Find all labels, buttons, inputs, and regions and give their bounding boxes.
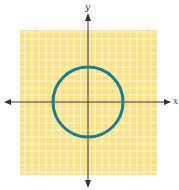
y-axis-label: y <box>85 2 90 12</box>
y-axis-down-arrow-icon <box>85 180 91 188</box>
coordinate-plane <box>0 0 179 190</box>
y-axis-up-arrow-icon <box>85 13 91 21</box>
x-axis-left-arrow-icon <box>4 99 11 105</box>
x-axis-label: x <box>173 96 178 106</box>
x-axis-right-arrow-icon <box>164 99 171 105</box>
